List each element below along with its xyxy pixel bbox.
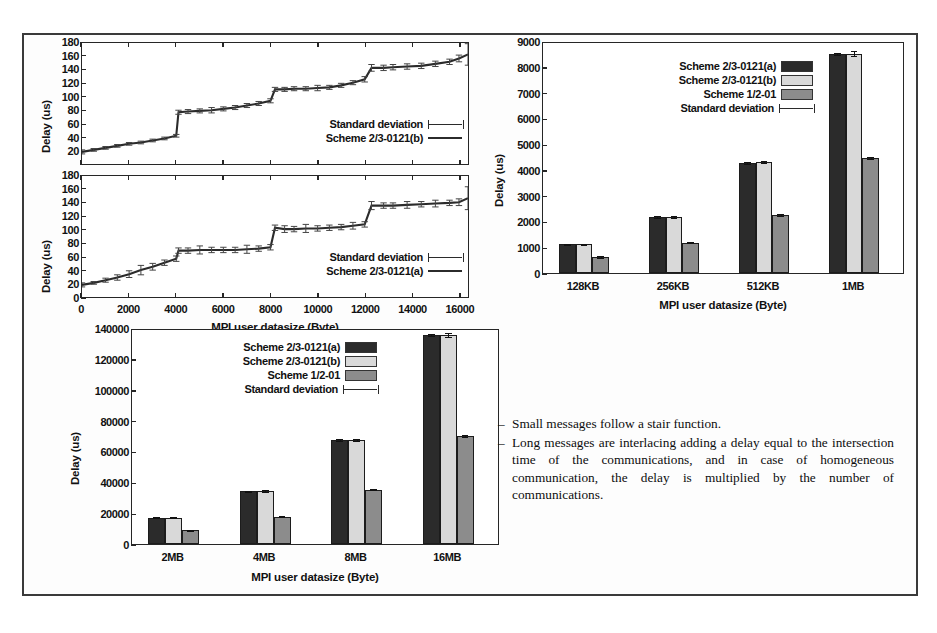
x-tick-label: 12000 xyxy=(351,303,380,315)
y-tick-mark xyxy=(542,274,547,275)
y-tick-label: 9000 xyxy=(494,36,540,48)
x-tick-mark xyxy=(80,160,81,165)
bar-a xyxy=(649,217,666,273)
legend-label: Scheme 2/3-0121(a) xyxy=(243,341,340,353)
x-tick-mark xyxy=(412,160,413,165)
error-bar-cap xyxy=(245,492,252,493)
legend-row: Scheme 2/3-0121(b) xyxy=(162,354,377,368)
x-tick-mark-top xyxy=(80,175,81,180)
y-tick-mark xyxy=(542,222,547,223)
note-text: Long messages are interlacing adding a d… xyxy=(512,434,894,504)
y-tick-mark xyxy=(131,514,136,515)
y-tick-label: 180 xyxy=(33,36,79,48)
bar-b xyxy=(165,518,182,544)
y-tick-mark xyxy=(542,145,547,146)
y-tick-label: 2000 xyxy=(494,216,540,228)
x-tick-mark-top xyxy=(270,175,271,180)
x-tick-mark xyxy=(222,293,223,298)
legend-line-key xyxy=(428,270,462,272)
legend-row: Scheme 2/3-0121(a) xyxy=(162,340,377,354)
x-tick-label: 10000 xyxy=(304,303,333,315)
y-tick-label: 120000 xyxy=(83,354,129,366)
y-tick-mark xyxy=(131,390,136,391)
x-tick-mark xyxy=(459,293,460,298)
y-tick-label: 140 xyxy=(33,63,79,75)
y-tick-label: 120 xyxy=(33,210,79,222)
chart-panel-bar-large: Delay (us) Scheme 2/3-0121(a)Scheme 2/3-… xyxy=(56,323,516,593)
error-bar-cap xyxy=(687,243,694,244)
x-tick-mark-top xyxy=(412,42,413,47)
error-bar-cap xyxy=(834,55,841,56)
y-tick-label: 40000 xyxy=(83,477,129,489)
y-tick-label: 60 xyxy=(33,251,79,263)
x-tick-mark xyxy=(365,160,366,165)
y-tick-label: 60 xyxy=(33,118,79,130)
x-tick-mark xyxy=(80,293,81,298)
error-bar-cap xyxy=(867,159,874,160)
x-tick-mark-top xyxy=(459,42,460,47)
x-tick-mark-top xyxy=(412,175,413,180)
x-tick-label: 8MB xyxy=(345,551,367,563)
note-text: Small messages follow a stair function. xyxy=(512,415,894,433)
legend-label: Standard deviation xyxy=(244,383,338,395)
bar-c xyxy=(592,257,609,273)
y-tick-label: 8000 xyxy=(494,62,540,74)
error-bar-cap xyxy=(777,216,784,217)
x-tick-label: 512KB xyxy=(747,280,779,292)
legend-swatch-a xyxy=(345,342,377,353)
y-tick-mark xyxy=(81,124,86,125)
x-tick-label: 8000 xyxy=(259,303,282,315)
y-tick-mark xyxy=(81,42,86,43)
x-tick-mark-top xyxy=(175,42,176,47)
x-tick-mark xyxy=(175,293,176,298)
line-a-plot-area: Standard deviationScheme 2/3-0121(a) xyxy=(81,175,469,298)
y-tick-mark xyxy=(81,188,86,189)
y-tick-label: 3000 xyxy=(494,191,540,203)
y-tick-mark xyxy=(81,257,86,258)
x-tick-mark xyxy=(270,160,271,165)
error-bar-cap xyxy=(851,51,858,52)
x-tick-mark-top xyxy=(222,175,223,180)
y-tick-label: 20 xyxy=(33,145,79,157)
error-bar-cap xyxy=(428,336,435,337)
legend-swatch-c xyxy=(345,370,377,381)
y-tick-mark xyxy=(81,175,86,176)
bar-large-plot-area: Scheme 2/3-0121(a)Scheme 2/3-0121(b)Sche… xyxy=(131,329,499,545)
bar-c xyxy=(457,436,474,544)
legend-label: Scheme 2/3-0121(a) xyxy=(326,265,423,277)
y-tick-label: 80 xyxy=(33,104,79,116)
y-tick-mark xyxy=(542,42,547,43)
x-tick-label: 4000 xyxy=(164,303,187,315)
bar-c xyxy=(274,517,291,545)
chart-panel-bar-small: Delay (us) Scheme 2/3-0121(a)Scheme 2/3-… xyxy=(480,35,916,325)
y-tick-label: 100 xyxy=(33,91,79,103)
legend-label: Standard deviation xyxy=(680,102,774,114)
legend-row: Standard deviation xyxy=(598,101,813,115)
x-tick-mark-top xyxy=(317,42,318,47)
x-tick-label: 16000 xyxy=(446,303,475,315)
x-tick-mark-top xyxy=(317,175,318,180)
bar-b xyxy=(666,217,683,273)
x-tick-label: 1MB xyxy=(842,280,864,292)
note-item: –Long messages are interlacing adding a … xyxy=(498,434,894,504)
y-tick-mark xyxy=(81,229,86,230)
y-tick-label: 60000 xyxy=(83,446,129,458)
error-bar-cap xyxy=(187,531,194,532)
legend-label: Scheme 2/3-0121(b) xyxy=(326,132,423,144)
error-bar-cap xyxy=(279,517,286,518)
legend-errorbar-key xyxy=(343,385,377,394)
bar-a xyxy=(423,335,440,544)
bar-c xyxy=(182,530,199,544)
error-bar-cap xyxy=(834,53,841,54)
bar-b xyxy=(348,440,365,544)
legend-label: Scheme 1/2-01 xyxy=(267,369,340,381)
bar-c xyxy=(772,215,789,273)
y-tick-mark xyxy=(542,248,547,249)
y-tick-mark xyxy=(81,298,86,299)
y-tick-label: 160 xyxy=(33,50,79,62)
error-bar-cap xyxy=(462,437,469,438)
y-tick-mark xyxy=(81,284,86,285)
y-tick-mark xyxy=(131,452,136,453)
x-tick-mark xyxy=(175,160,176,165)
line-series-path xyxy=(82,176,468,297)
